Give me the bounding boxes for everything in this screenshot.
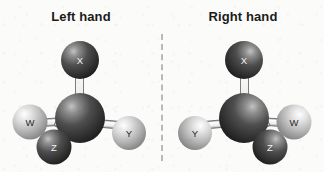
molecule-right: X Y W Z [162, 0, 324, 172]
atom-label-z: Z [267, 142, 273, 153]
panel-right-hand: Right hand [162, 0, 324, 172]
atom-label-x: X [241, 55, 248, 66]
figure-stage: Left hand [0, 0, 324, 172]
panel-left-hand: Left hand [0, 0, 162, 172]
atom-z: Z [37, 130, 72, 165]
atom-label-y: Y [126, 128, 133, 139]
atom-label-w: W [290, 117, 299, 128]
atom-y: Y [112, 116, 146, 150]
atom-label-z: Z [51, 142, 57, 153]
atom-label-x: X [77, 55, 84, 66]
atom-label-w: W [26, 117, 35, 128]
atom-group-left: X Y W [13, 41, 147, 165]
atom-x: X [61, 41, 99, 79]
molecule-left: X Y W [0, 0, 162, 172]
atom-label-y: Y [192, 128, 199, 139]
